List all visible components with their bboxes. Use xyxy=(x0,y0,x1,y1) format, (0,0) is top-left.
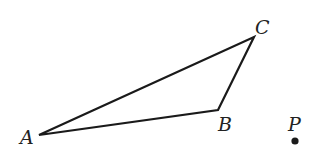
vertex-label-a: A xyxy=(18,126,34,148)
point-label-p: P xyxy=(287,113,302,135)
geometry-diagram: A B C P xyxy=(0,0,322,158)
vertex-label-b: B xyxy=(217,113,232,135)
point-p-dot xyxy=(291,137,298,144)
vertex-label-c: C xyxy=(255,16,270,38)
